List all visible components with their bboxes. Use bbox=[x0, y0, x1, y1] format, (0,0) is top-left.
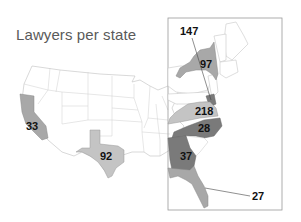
label-maryland: 147 bbox=[180, 25, 198, 37]
label-california: 33 bbox=[26, 120, 38, 132]
state-florida[interactable] bbox=[168, 166, 208, 208]
label-texas: 92 bbox=[100, 150, 112, 162]
us-map: 33 92 97 218 28 37 147 27 bbox=[0, 0, 301, 222]
label-north-carolina: 28 bbox=[198, 122, 210, 134]
label-new-york: 97 bbox=[200, 58, 212, 70]
label-georgia: 37 bbox=[180, 150, 192, 162]
label-virginia: 218 bbox=[195, 105, 213, 117]
label-florida: 27 bbox=[252, 190, 264, 202]
leader-line-27 bbox=[205, 188, 250, 196]
